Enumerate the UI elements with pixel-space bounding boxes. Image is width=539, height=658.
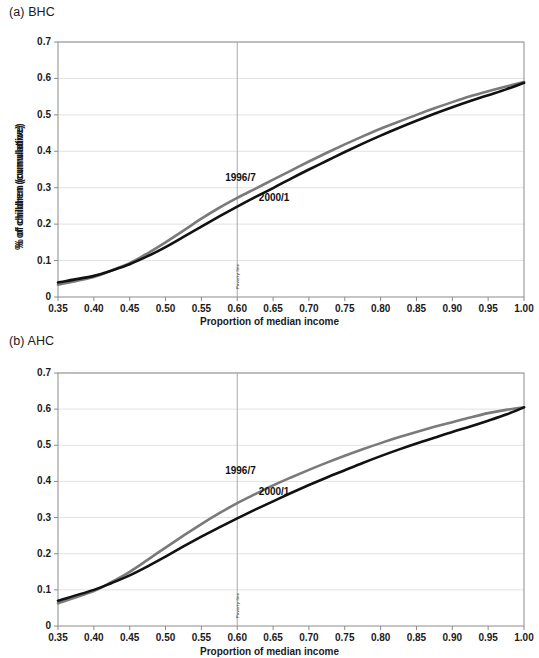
y-tick-label: 0.5 bbox=[10, 439, 51, 450]
x-axis-title-ahc: Proportion of median income bbox=[0, 646, 539, 657]
x-tick-label: 1.00 bbox=[502, 632, 539, 643]
poverty-line-label: Poverty line bbox=[235, 593, 240, 618]
series-annotation-1996-7: 1996/7 bbox=[225, 172, 256, 183]
plot-area-bhc: 0.350.400.450.500.550.600.650.700.750.80… bbox=[0, 0, 539, 329]
y-tick-label: 0 bbox=[10, 620, 51, 631]
series-line-1996-7 bbox=[58, 82, 524, 285]
series-line-1996-7 bbox=[58, 407, 524, 603]
series-annotation-1996-7: 1996/7 bbox=[225, 465, 256, 476]
y-tick-label: 0.3 bbox=[10, 512, 51, 523]
plot-area-ahc: 0.350.400.450.500.550.600.650.700.750.80… bbox=[0, 329, 539, 658]
series-annotation-2000-1: 2000/1 bbox=[259, 192, 290, 203]
chart-svg-bhc bbox=[0, 0, 539, 329]
y-tick-label: 0 bbox=[10, 291, 51, 302]
figure-root: (a) BHC 0.350.400.450.500.550.600.650.70… bbox=[0, 0, 539, 658]
poverty-line-label: Poverty line bbox=[235, 264, 240, 289]
y-tick-label: 0.5 bbox=[10, 109, 51, 120]
y-tick-label: 0.6 bbox=[10, 403, 51, 414]
y-axis-title-ahc: % of children (cumulative) bbox=[14, 124, 25, 248]
series-annotation-2000-1: 2000/1 bbox=[259, 486, 290, 497]
y-tick-label: 0.7 bbox=[10, 36, 51, 47]
y-tick-label: 0.2 bbox=[10, 548, 51, 559]
y-tick-label: 0.4 bbox=[10, 475, 51, 486]
y-tick-label: 0.1 bbox=[10, 584, 51, 595]
chart-panel-ahc: (b) AHC 0.350.400.450.500.550.600.650.70… bbox=[0, 329, 539, 658]
y-tick-label: 0.6 bbox=[10, 72, 51, 83]
y-tick-label: 0.7 bbox=[10, 367, 51, 378]
x-tick-label: 1.00 bbox=[502, 303, 539, 314]
x-axis-title-bhc: Proportion of median income bbox=[0, 316, 539, 327]
plot-frame bbox=[58, 373, 524, 626]
y-tick-label: 0.1 bbox=[10, 255, 51, 266]
series-line-2000-1 bbox=[58, 83, 524, 283]
chart-panel-bhc: (a) BHC 0.350.400.450.500.550.600.650.70… bbox=[0, 0, 539, 329]
